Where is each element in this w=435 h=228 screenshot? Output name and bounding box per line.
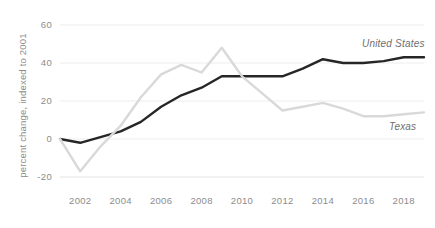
series-line-united-states — [60, 57, 424, 143]
y-axis-label: percent change, indexed to 2001 — [17, 21, 28, 191]
series-lines — [60, 48, 424, 172]
x-tick-2010: 2010 — [222, 195, 262, 206]
x-tick-2018: 2018 — [384, 195, 424, 206]
x-tick-2004: 2004 — [101, 195, 141, 206]
x-tick-2008: 2008 — [182, 195, 222, 206]
x-tick-2014: 2014 — [303, 195, 343, 206]
series-label-united-states: United States — [362, 38, 425, 49]
plot-area — [0, 0, 435, 228]
x-tick-2002: 2002 — [60, 195, 100, 206]
line-chart: -200204060 20022004200620082010201220142… — [0, 0, 435, 228]
x-tick-2016: 2016 — [343, 195, 383, 206]
series-line-texas — [60, 48, 424, 172]
series-label-texas: Texas — [389, 121, 416, 132]
x-tick-2012: 2012 — [262, 195, 302, 206]
x-tick-2006: 2006 — [141, 195, 181, 206]
